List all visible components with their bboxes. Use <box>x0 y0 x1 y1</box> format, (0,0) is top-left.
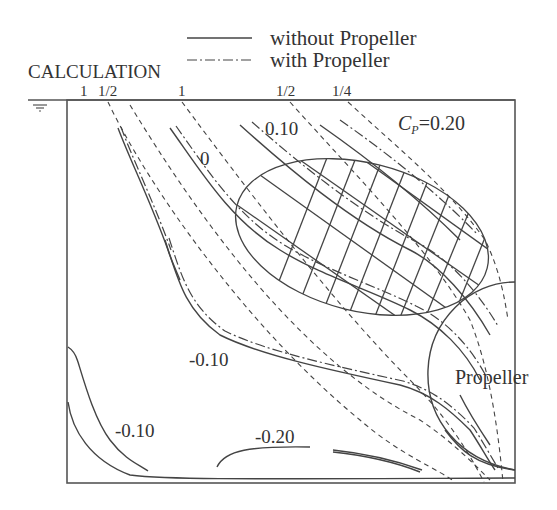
calculation-dashed-lines <box>108 102 508 482</box>
contour-label-010: 0.10 <box>265 118 298 139</box>
propeller-label: Propeller <box>455 366 529 389</box>
pressure-contour-diagram: without Propeller with Propeller CALCULA… <box>0 0 557 510</box>
tick-label-half-b: 1/2 <box>276 83 295 99</box>
hatched-region <box>219 134 510 355</box>
legend-without-propeller: without Propeller <box>270 26 416 50</box>
contour-label-minus-010-mid: -0.10 <box>189 349 229 370</box>
tick-label-quarter: 1/4 <box>332 83 352 99</box>
contour-020 <box>320 120 478 240</box>
legend-with-propeller: with Propeller <box>270 48 390 72</box>
tick-label-half-a: 1/2 <box>98 83 117 99</box>
contour-zero <box>170 126 486 380</box>
water-surface-icon <box>33 105 47 111</box>
contour-label-minus-010-low: -0.10 <box>115 420 155 441</box>
contour-minus-010-lower-left <box>68 347 515 479</box>
contour-minus-020 <box>217 447 422 472</box>
calculation-label: CALCULATION <box>28 61 161 82</box>
cp-label: CP=0.20 <box>398 112 465 137</box>
tick-label-1b: 1 <box>178 83 186 99</box>
legend: without Propeller with Propeller <box>187 26 416 72</box>
contour-label-0: 0 <box>200 148 210 169</box>
contour-label-minus-020: -0.20 <box>255 426 295 447</box>
tick-label-1a: 1 <box>80 83 88 99</box>
